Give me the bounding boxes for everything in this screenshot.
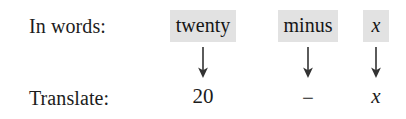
value-cell-twenty: 20 [193, 86, 214, 107]
translation-column-twenty: twenty 20 [150, 0, 256, 119]
translation-column-x: x x [352, 0, 400, 119]
word-cell-x: x [363, 10, 390, 42]
word-cell-minus: minus [278, 10, 339, 42]
down-arrow-icon-minus [299, 47, 317, 83]
word-cell-twenty: twenty [170, 10, 236, 42]
down-arrow-icon-twenty [194, 47, 212, 83]
translation-column-minus: minus − [262, 0, 354, 119]
value-cell-minus-operator: − [302, 88, 314, 109]
down-arrow-icon-x [367, 47, 385, 83]
row-label-translate: Translate: [29, 88, 109, 108]
row-label-in-words: In words: [29, 16, 106, 36]
value-cell-x: x [371, 86, 380, 107]
translation-figure: In words: Translate: twenty 20 minus − x [0, 0, 406, 119]
